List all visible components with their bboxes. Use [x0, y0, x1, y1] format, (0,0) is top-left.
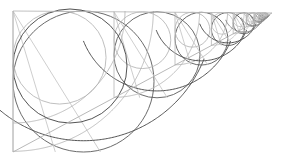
- figure-canvas: [0, 0, 285, 164]
- geometric-construction-svg: [0, 0, 285, 164]
